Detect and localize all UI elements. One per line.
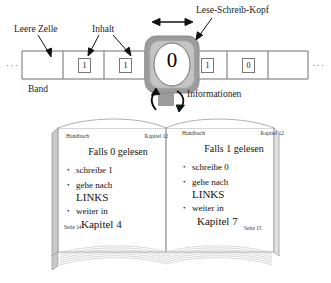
label-empty-cell: Leere Zelle (14, 24, 58, 34)
left-page-number: Seite 14 (64, 224, 82, 230)
label-read-write-head: Lese-Schreib-Kopf (196, 5, 269, 15)
book-left-page: Handbuch Kapitel 12 Falls 0 gelesen schr… (62, 133, 174, 234)
tape-left-ellipsis: ··· (6, 60, 20, 70)
label-content: Inhalt (92, 24, 114, 34)
right-page-title: Falls 1 gelesen (178, 143, 290, 154)
right-item-2-line1: weiter in (192, 203, 224, 213)
head-current-symbol: 0 (160, 49, 184, 71)
right-page-header: Handbuch Kapitel 12 (178, 130, 290, 136)
right-page-instruction-list: schreibe 0 gehe nach LINKS weiter in Kap… (178, 162, 290, 228)
list-item: schreibe 0 (192, 162, 290, 174)
right-item-0-line1: schreibe 0 (192, 162, 229, 172)
list-item: gehe nach LINKS (192, 177, 290, 201)
left-page-header-right: Kapitel 12 (145, 133, 168, 139)
right-item-2-line2: Kapitel 7 (192, 215, 290, 228)
right-page-header-left: Handbuch (182, 130, 205, 136)
turing-machine-diagram: ··· ··· 1 1 1 0 0 Leere Zelle Inhalt Les… (0, 0, 331, 283)
list-item: gehe nach LINKS (76, 180, 174, 204)
right-item-1-line2: LINKS (192, 188, 290, 200)
left-item-1-line2: LINKS (76, 191, 174, 203)
left-item-2-line1: weiter in (76, 206, 108, 216)
tape-cell-2[interactable]: 1 (119, 58, 132, 73)
book-right-page: Handbuch Kapitel 12 Falls 1 gelesen schr… (178, 130, 290, 231)
label-information: Informationen (187, 89, 241, 99)
left-page-title: Falls 0 gelesen (62, 146, 174, 157)
tape-right-ellipsis: ··· (312, 60, 326, 70)
left-page-header-left: Handbuch (66, 133, 89, 139)
tape-cell-1[interactable]: 1 (78, 58, 91, 73)
label-tape: Band (28, 84, 48, 94)
left-item-0-line1: schreibe 1 (76, 165, 113, 175)
list-item: weiter in Kapitel 7 (192, 203, 290, 228)
list-item: weiter in Kapitel 4 (76, 206, 174, 231)
head-move-arrow-icon (152, 18, 193, 25)
right-page-header-right: Kapitel 12 (261, 130, 284, 136)
tape-cell-4[interactable]: 1 (201, 58, 214, 73)
left-page-instruction-list: schreibe 1 gehe nach LINKS weiter in Kap… (62, 165, 174, 231)
right-page-number: Seite 15 (244, 225, 262, 231)
left-item-1-line1: gehe nach (76, 180, 112, 190)
right-item-1-line1: gehe nach (192, 177, 228, 187)
tape-cell-5[interactable]: 0 (242, 58, 255, 73)
left-page-header: Handbuch Kapitel 12 (62, 133, 174, 139)
left-item-2-line2: Kapitel 4 (76, 218, 174, 231)
list-item: schreibe 1 (76, 165, 174, 177)
